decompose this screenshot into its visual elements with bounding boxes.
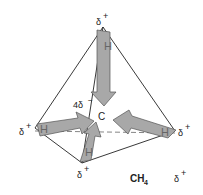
svg-text:+: + <box>26 121 31 131</box>
svg-text:δ: δ <box>77 170 82 180</box>
svg-text:+: + <box>181 168 186 178</box>
svg-text:4: 4 <box>144 179 148 186</box>
charge-top: δ + <box>96 11 108 27</box>
svg-text:δ: δ <box>174 174 179 184</box>
h-label-top: H <box>104 40 112 52</box>
central-charge: 4δ − <box>73 96 93 110</box>
methane-tetrahedron-diagram: H H H H δ + δ + δ + δ + C 4δ − CH 4 δ + <box>0 0 203 195</box>
svg-text:δ: δ <box>96 17 101 27</box>
charge-left: δ + <box>19 121 31 137</box>
svg-text:+: + <box>103 11 108 21</box>
svg-text:+: + <box>84 164 89 174</box>
formula-label: CH 4 <box>130 173 148 186</box>
carbon-label: C <box>98 111 105 122</box>
svg-text:−: − <box>88 96 93 105</box>
svg-text:δ: δ <box>19 127 24 137</box>
edge-top-left <box>35 27 103 128</box>
svg-text:CH: CH <box>130 173 144 184</box>
h-label-bottom: H <box>85 146 93 158</box>
svg-text:δ: δ <box>178 128 183 138</box>
extra-charge-label: δ + <box>174 168 186 184</box>
svg-text:+: + <box>185 122 190 132</box>
charge-right: δ + <box>178 122 190 138</box>
edge-top-right <box>103 27 175 131</box>
svg-text:4δ: 4δ <box>73 100 83 110</box>
h-label-left: H <box>40 123 48 135</box>
charge-bottom: δ + <box>77 164 89 180</box>
h-label-right: H <box>161 126 169 138</box>
